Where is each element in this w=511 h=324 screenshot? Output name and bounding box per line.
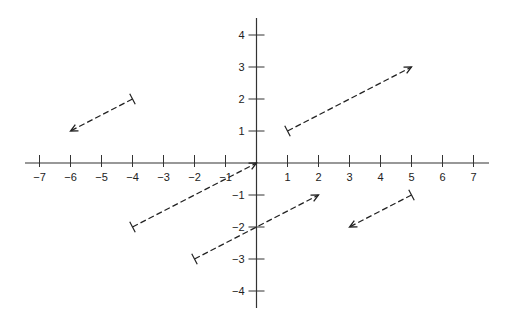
coordinate-plane: −7−6−5−4−3−2−11234567−4−3−2−11234 [0, 0, 511, 324]
arrowhead-icon [311, 195, 319, 201]
y-tick-label: −4 [232, 285, 245, 297]
vector-arrow [71, 94, 136, 131]
arrowhead-icon [71, 125, 79, 131]
x-tick-label: 1 [284, 171, 290, 183]
x-tick-label: −5 [95, 171, 108, 183]
x-tick-label: 5 [408, 171, 414, 183]
vector-arrow [350, 190, 415, 227]
y-tick-label: 4 [238, 29, 244, 41]
y-tick-label: −1 [232, 189, 245, 201]
x-tick-label: −4 [126, 171, 139, 183]
y-tick-label: 3 [238, 61, 244, 73]
x-tick-label: −6 [64, 171, 77, 183]
x-tick-label: −2 [188, 171, 201, 183]
vector-tail [130, 94, 136, 105]
x-tick-label: −3 [157, 171, 170, 183]
vector-arrow [285, 67, 412, 136]
vector-tail [192, 254, 198, 265]
arrowhead-icon [249, 163, 257, 169]
vector-tail [130, 222, 136, 233]
x-tick-label: 6 [439, 171, 445, 183]
arrowhead-icon [404, 67, 412, 73]
vector-tail [409, 190, 415, 201]
y-tick-label: 1 [238, 125, 244, 137]
vector-tail [285, 126, 291, 137]
x-tick-label: 3 [346, 171, 352, 183]
y-tick-label: −3 [232, 253, 245, 265]
y-tick-label: 2 [238, 93, 244, 105]
x-tick-label: 4 [377, 171, 383, 183]
y-tick-label: −2 [232, 221, 245, 233]
arrowhead-icon [350, 221, 358, 227]
x-tick-label: 2 [315, 171, 321, 183]
x-tick-label: −7 [33, 171, 46, 183]
vector-arrow [192, 195, 319, 264]
x-tick-label: 7 [470, 171, 476, 183]
